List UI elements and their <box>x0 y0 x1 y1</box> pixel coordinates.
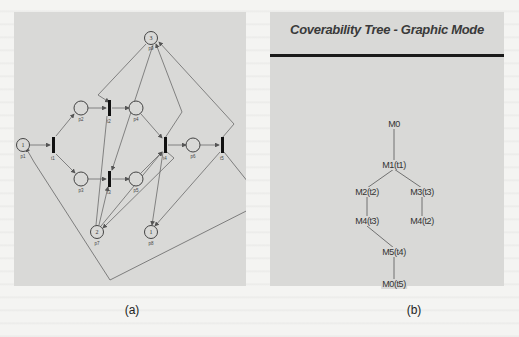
svg-text:1: 1 <box>22 142 25 148</box>
tree-node-m5: M5(t4) <box>381 247 407 257</box>
svg-text:p7: p7 <box>94 241 100 246</box>
caption-a: (a) <box>112 303 152 317</box>
svg-text:1: 1 <box>150 229 153 235</box>
tree-node-m0-t5: M0(t5) <box>381 279 407 289</box>
caption-b: (b) <box>394 303 434 317</box>
tree-node-m1: M1(t1) <box>381 160 407 170</box>
svg-text:t3: t3 <box>107 190 111 195</box>
svg-text:t5: t5 <box>220 156 224 161</box>
petri-net-diagram: 1 2 1 3 p1 p2 p3 p4 p5 p6 p7 p8 p9 t1 t2… <box>14 12 246 286</box>
svg-text:t2: t2 <box>107 119 111 124</box>
svg-text:p9: p9 <box>148 46 154 51</box>
tree-node-m4-t2: M4(t2) <box>409 216 435 226</box>
svg-text:p6: p6 <box>190 154 196 159</box>
tree-node-m3: M3(t3) <box>409 187 435 197</box>
svg-text:p4: p4 <box>133 117 139 122</box>
tree-node-m4-t3: M4(t3) <box>354 216 380 226</box>
svg-text:p1: p1 <box>20 154 26 159</box>
svg-text:2: 2 <box>96 229 99 235</box>
svg-text:p2: p2 <box>78 117 84 122</box>
tree-node-m2: M2(t2) <box>354 187 380 197</box>
petri-net-panel: 1 2 1 3 p1 p2 p3 p4 p5 p6 p7 p8 p9 t1 t2… <box>14 12 246 286</box>
svg-text:p3: p3 <box>78 188 84 193</box>
coverability-tree-panel: Coverability Tree - Graphic Mode M0 M1(t… <box>270 12 504 286</box>
svg-text:t4: t4 <box>163 156 167 161</box>
coverability-tree <box>270 12 504 286</box>
svg-text:t1: t1 <box>51 156 55 161</box>
svg-text:p8: p8 <box>148 241 154 246</box>
tree-node-m0: M0 <box>387 119 401 129</box>
svg-text:3: 3 <box>150 35 153 41</box>
svg-text:p5: p5 <box>133 188 139 193</box>
